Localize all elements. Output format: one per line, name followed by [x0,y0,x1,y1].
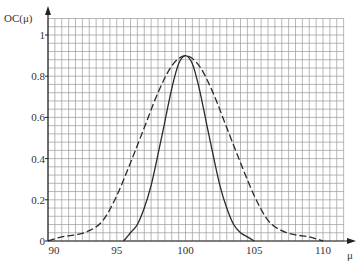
grid-lines [48,19,344,241]
x-tick-label: 105 [246,244,263,256]
x-axis-arrow-icon [347,238,356,244]
x-tick-label: 95 [111,244,123,256]
y-tick-label: 0.2 [31,194,45,206]
x-tick-label: 90 [49,244,61,256]
x-tick-label: 110 [315,244,332,256]
tick-labels: 909510010511000.20.40.60.81 [31,29,331,256]
y-tick-label: 0.8 [31,70,45,82]
y-tick-label: 1 [40,29,46,41]
y-axis-title: OC(μ) [4,12,33,25]
oc-curve-chart: 909510010511000.20.40.60.81 OC(μ) μ [0,0,364,267]
x-axis-title: μ [347,249,353,261]
y-tick-label: 0 [40,235,46,247]
y-tick-label: 0.6 [31,111,45,123]
y-axis-arrow-icon [45,6,51,15]
y-tick-label: 0.4 [31,153,45,165]
x-tick-label: 100 [177,244,194,256]
